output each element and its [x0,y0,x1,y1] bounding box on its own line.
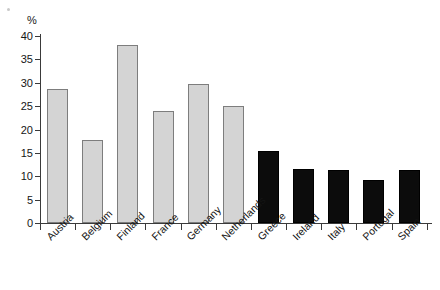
x-axis-tick [392,224,393,230]
x-axis-tick [356,224,357,230]
x-axis-tick [40,224,41,230]
stray-dot-artifact [7,8,10,11]
y-axis-tick [35,130,41,131]
y-axis-tick-label: 40 [5,30,33,42]
x-axis-tick [321,224,322,230]
y-axis-tick-label: 0 [5,217,33,229]
x-axis-tick [427,224,428,230]
x-axis-tick [181,224,182,230]
y-axis-unit-label: % [27,14,37,26]
x-axis-tick [75,224,76,230]
bar-finland [117,45,138,223]
y-axis-tick-label: 25 [5,100,33,112]
y-axis-tick [35,83,41,84]
y-axis-tick-label: 35 [5,53,33,65]
y-axis-tick-label: 5 [5,194,33,206]
y-axis-tick-label: 30 [5,77,33,89]
y-axis-tick-label: 10 [5,170,33,182]
bar-italy [328,170,349,223]
y-axis-tick [35,200,41,201]
bar-spain [399,170,420,223]
bar-austria [47,89,68,223]
bar-belgium [82,140,103,223]
bar-chart: % 0510152025303540 AustriaBelgiumFinland… [0,0,440,290]
y-axis-tick [35,36,41,37]
x-axis-tick [110,224,111,230]
bar-germany [188,84,209,223]
y-axis-tick [35,176,41,177]
y-axis-tick-label: 20 [5,124,33,136]
y-axis-tick [35,59,41,60]
bar-netherlands [223,106,244,223]
x-axis-tick [251,224,252,230]
x-axis-tick [216,224,217,230]
x-axis-tick [286,224,287,230]
y-axis-tick [35,153,41,154]
x-axis-tick [145,224,146,230]
y-axis-tick [35,106,41,107]
y-axis-tick-label: 15 [5,147,33,159]
bar-france [153,111,174,223]
